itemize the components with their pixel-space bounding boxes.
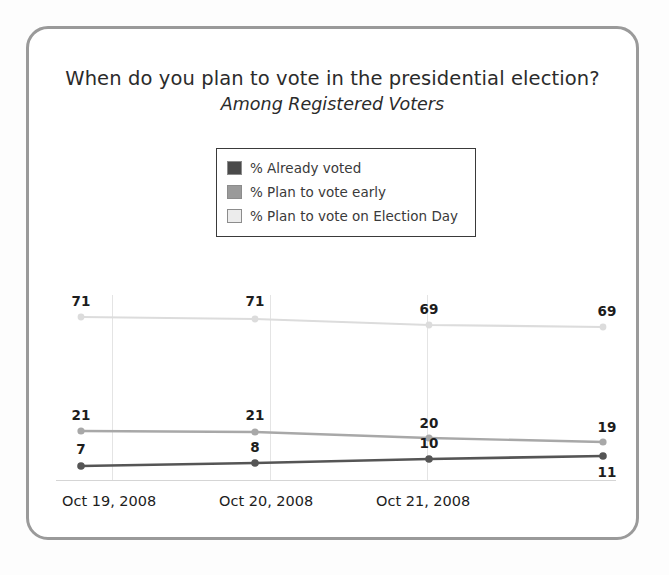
point-already-voted-1 — [251, 459, 259, 467]
data-label-vote-early-2: 20 — [420, 415, 439, 431]
point-already-voted-0 — [77, 462, 85, 470]
data-label-vote-early-0: 21 — [72, 407, 91, 423]
point-vote-early-3 — [599, 438, 606, 445]
data-label-election-day-2: 69 — [420, 301, 439, 317]
data-label-already-voted-2: 10 — [420, 435, 439, 451]
point-election-day-3 — [600, 324, 607, 331]
data-label-already-voted-0: 7 — [76, 441, 85, 457]
data-label-vote-early-1: 21 — [246, 407, 265, 423]
plot-area: 71 71 69 69 21 21 20 19 7 8 10 11 Oct 19… — [29, 29, 642, 543]
x-tick-label-1: Oct 20, 2008 — [219, 493, 313, 509]
data-label-already-voted-1: 8 — [250, 439, 259, 455]
point-already-voted-2 — [425, 455, 433, 463]
x-tick-label-0: Oct 19, 2008 — [62, 493, 156, 509]
series-path-already-voted — [81, 456, 603, 466]
data-label-election-day-3: 69 — [598, 303, 617, 319]
point-vote-early-0 — [77, 427, 84, 434]
point-already-voted-3 — [599, 452, 607, 460]
x-tick-label-2: Oct 21, 2008 — [376, 493, 470, 509]
point-election-day-0 — [78, 314, 85, 321]
point-vote-early-1 — [251, 428, 258, 435]
series-path-vote-early — [81, 431, 603, 442]
data-label-vote-early-3: 19 — [598, 419, 617, 435]
data-label-election-day-0: 71 — [72, 293, 91, 309]
point-election-day-2 — [426, 322, 433, 329]
point-election-day-1 — [252, 316, 259, 323]
series-path-election-day — [81, 317, 603, 327]
data-label-already-voted-3: 11 — [598, 464, 617, 480]
series-lines — [29, 29, 642, 543]
chart-card: When do you plan to vote in the presiden… — [26, 26, 639, 540]
data-label-election-day-1: 71 — [246, 293, 265, 309]
screenshot-root: When do you plan to vote in the presiden… — [0, 0, 669, 575]
